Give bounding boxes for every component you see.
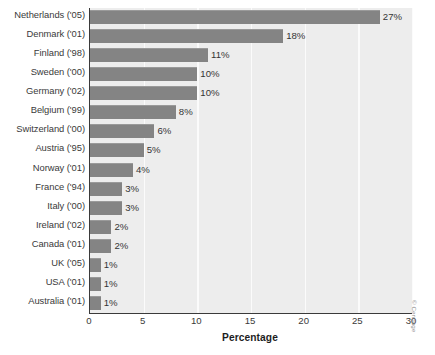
bar-value-label: 10% <box>197 86 219 100</box>
bar-row: 1% <box>90 294 412 313</box>
x-tick-label: 5 <box>140 315 145 326</box>
category-label: Ireland ('02) <box>0 220 85 230</box>
bar-row: 8% <box>90 103 412 122</box>
bar <box>90 258 101 272</box>
x-tick-label: 0 <box>86 315 91 326</box>
bar-value-label: 1% <box>101 296 118 310</box>
bar-row: 2% <box>90 237 412 256</box>
category-label: Switzerland ('00) <box>0 124 85 134</box>
bar-row: 5% <box>90 141 412 160</box>
bar-row: 10% <box>90 65 412 84</box>
category-label: UK ('05) <box>0 258 85 268</box>
bar <box>90 220 111 234</box>
bar-row: 6% <box>90 122 412 141</box>
bar <box>90 124 154 138</box>
category-axis-labels: Netherlands ('05)Denmark ('01)Finland ('… <box>0 8 85 313</box>
bar <box>90 86 197 100</box>
x-tick-label: 25 <box>352 315 363 326</box>
category-label: Belgium ('99) <box>0 105 85 115</box>
bar <box>90 143 144 157</box>
bar <box>90 29 283 43</box>
bar-row: 10% <box>90 84 412 103</box>
bar-value-label: 3% <box>122 182 139 196</box>
x-tick-label: 15 <box>245 315 256 326</box>
bar <box>90 277 101 291</box>
bar <box>90 48 208 62</box>
bar-value-label: 4% <box>133 163 150 177</box>
bar <box>90 67 197 81</box>
bar-value-label: 5% <box>144 143 161 157</box>
category-label: Netherlands ('05) <box>0 10 85 20</box>
bar-row: 11% <box>90 46 412 65</box>
category-label: Denmark ('01) <box>0 29 85 39</box>
bar <box>90 201 122 215</box>
plot-area: 27%18%11%10%10%8%6%5%4%3%3%2%2%1%1%1% <box>89 8 412 314</box>
bar-value-label: 6% <box>154 124 171 138</box>
bar-value-label: 2% <box>111 239 128 253</box>
category-label: Austria ('95) <box>0 143 85 153</box>
bar-row: 3% <box>90 180 412 199</box>
category-label: USA ('01) <box>0 277 85 287</box>
bar-series: 27%18%11%10%10%8%6%5%4%3%3%2%2%1%1%1% <box>90 8 412 313</box>
category-label: France ('94) <box>0 182 85 192</box>
x-tick-label: 20 <box>298 315 309 326</box>
bar <box>90 105 176 119</box>
bar-value-label: 1% <box>101 258 118 272</box>
bar-value-label: 11% <box>208 48 230 62</box>
bar-row: 3% <box>90 199 412 218</box>
category-label: Canada ('01) <box>0 239 85 249</box>
x-axis-title: Percentage <box>89 332 411 343</box>
category-label: Italy ('00) <box>0 201 85 211</box>
bar-row: 1% <box>90 256 412 275</box>
bar-row: 2% <box>90 218 412 237</box>
bar <box>90 182 122 196</box>
bar-value-label: 18% <box>283 29 305 43</box>
bar <box>90 296 101 310</box>
bar <box>90 239 111 253</box>
bar-chart-figure: Netherlands ('05)Denmark ('01)Finland ('… <box>0 0 435 355</box>
copyright-credit: © Cengage <box>411 300 418 332</box>
bar-value-label: 27% <box>380 10 402 24</box>
bar-row: 4% <box>90 161 412 180</box>
bar-value-label: 10% <box>197 67 219 81</box>
category-label: Australia ('01) <box>0 296 85 306</box>
bar <box>90 10 380 24</box>
value-axis-ticks: 051015202530 <box>89 315 411 331</box>
bar-value-label: 8% <box>176 105 193 119</box>
x-tick-label: 10 <box>191 315 202 326</box>
bar-row: 18% <box>90 27 412 46</box>
category-label: Finland ('98) <box>0 48 85 58</box>
bar-value-label: 1% <box>101 277 118 291</box>
category-label: Germany ('02) <box>0 86 85 96</box>
gridline <box>412 8 413 313</box>
bar-row: 1% <box>90 275 412 294</box>
category-label: Sweden ('00) <box>0 67 85 77</box>
bar-value-label: 3% <box>122 201 139 215</box>
bar <box>90 163 133 177</box>
bar-value-label: 2% <box>111 220 128 234</box>
bar-row: 27% <box>90 8 412 27</box>
category-label: Norway ('01) <box>0 163 85 173</box>
